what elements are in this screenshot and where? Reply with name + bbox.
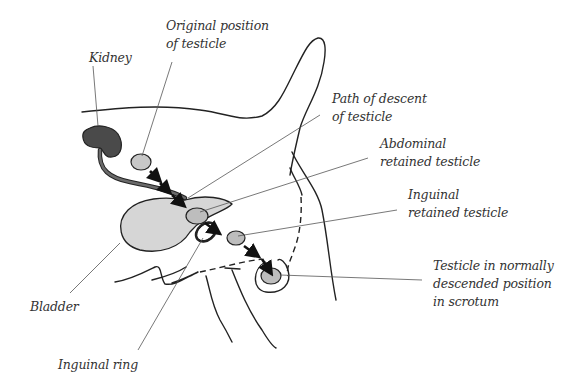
label-inguinal-retained-line1: Inguinal [407,187,459,202]
leader-path-descent [188,115,320,198]
leg-short-line [225,268,240,269]
testicle-scrotal [261,268,281,284]
leader-scrotal [280,275,422,280]
testicle-original-position [131,154,151,170]
leader-bladder [70,243,120,293]
label-original-position-line2: of testicle [166,36,226,51]
label-bladder: Bladder [29,299,80,314]
leader-inguinal-ring [138,238,203,350]
label-path-descent-line1: Path of descent [331,91,428,106]
label-abdominal-line2: retained testicle [380,154,480,169]
penis-outline [152,267,186,280]
label-scrotal-line1: Testicle in normally [433,258,555,273]
label-scrotal-line3: in scrotum [433,294,499,309]
label-abdominal-line1: Abdominal [379,136,446,151]
inguinal-canal-dashed [287,197,301,276]
lower-abdomen-outline [115,267,198,285]
kidney [83,126,122,157]
leader-abdominal [200,158,368,212]
leader-original-position [142,62,172,156]
inguinal-canal-dashed-lower [200,259,262,272]
leg-outline-left [206,276,232,342]
label-original-position-line1: Original position [166,18,269,33]
label-inguinal-ring: Inguinal ring [57,357,138,372]
label-inguinal-retained-line2: retained testicle [408,205,508,220]
label-scrotal-line2: descended position [433,276,552,291]
testicle-descent-diagram: Kidney Original position of testicle Pat… [0,0,569,389]
leader-inguinal-retained [238,210,397,236]
testicle-inguinal-retained [227,231,245,245]
leader-kidney [93,66,98,126]
label-kidney: Kidney [88,50,133,65]
label-path-descent-line2: of testicle [332,109,392,124]
